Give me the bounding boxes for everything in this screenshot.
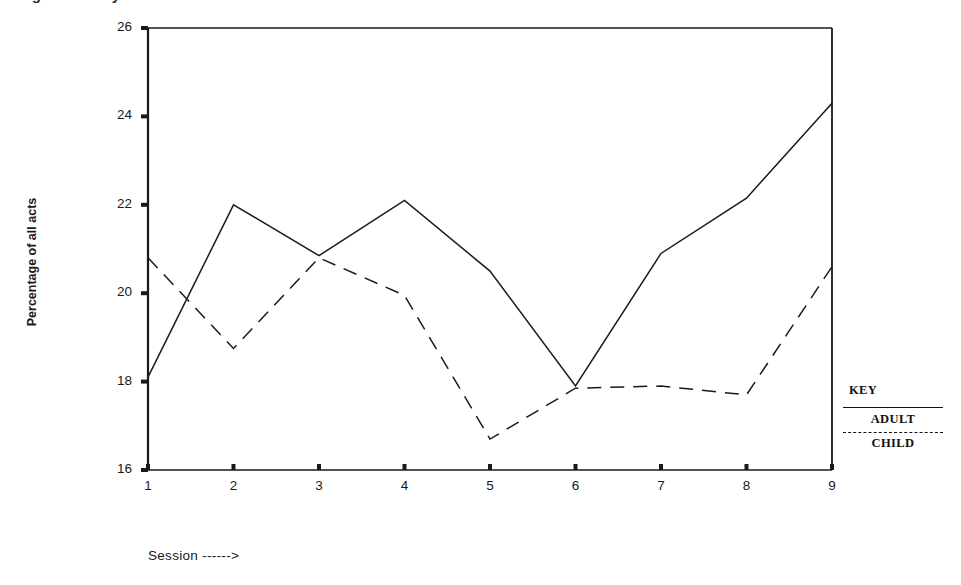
y-tick-label: 18 xyxy=(104,373,132,388)
x-tick-label: 8 xyxy=(737,478,757,493)
x-tick-label: 9 xyxy=(822,478,842,493)
legend-title: KEY xyxy=(849,383,953,398)
x-tick-label: 6 xyxy=(566,478,586,493)
legend-swatch-child-line xyxy=(843,432,943,433)
legend-swatch-adult-line xyxy=(843,407,943,408)
y-tick-label: 20 xyxy=(104,284,132,299)
series-line-child xyxy=(148,258,832,439)
x-tick-label: 1 xyxy=(138,478,158,493)
plot-area xyxy=(0,0,961,585)
legend-label-adult: ADULT xyxy=(843,412,943,427)
x-tick-label: 4 xyxy=(395,478,415,493)
x-tick-label: 7 xyxy=(651,478,671,493)
y-tick-label: 22 xyxy=(104,196,132,211)
chart-figure: Fig. ... acts by Percentage of all acts … xyxy=(0,0,961,585)
chart-legend: KEY ADULT CHILD xyxy=(843,383,953,451)
y-tick-label: 26 xyxy=(104,19,132,34)
x-tick-label: 2 xyxy=(224,478,244,493)
x-tick-label: 5 xyxy=(480,478,500,493)
x-tick-label: 3 xyxy=(309,478,329,493)
y-tick-label: 24 xyxy=(104,107,132,122)
y-tick-label: 16 xyxy=(104,461,132,476)
legend-label-child: CHILD xyxy=(843,436,943,451)
series-line-adult xyxy=(148,103,832,386)
